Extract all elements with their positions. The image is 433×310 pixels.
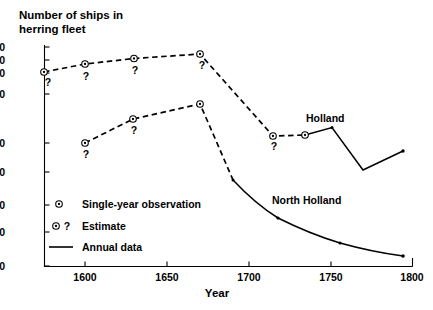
y-tick-500: 500 [0, 54, 5, 66]
series-north-holland-solid [232, 179, 405, 258]
x-axis-title: Year [205, 287, 229, 299]
x-tick-1800: 1800 [400, 271, 423, 283]
legend-marker-single-year-observation [56, 201, 63, 208]
y-axis-tick-labels: 600 500 400 300 200 150 100 70 50 [0, 0, 44, 310]
y-tick-150: 150 [0, 166, 5, 178]
estimate-qmark-1630-holland: ? [132, 64, 138, 76]
x-tick-1650: 1650 [155, 271, 178, 283]
x-tick-1700: 1700 [237, 271, 260, 283]
y-tick-200: 200 [0, 137, 5, 149]
x-tick-1750: 1750 [319, 271, 342, 283]
y-tick-600: 600 [0, 41, 5, 53]
legend-label-annual-data: Annual data [82, 241, 142, 253]
legend-marker-estimate [53, 223, 60, 230]
series-label-north-holland: North Holland [272, 194, 341, 206]
y-tick-100: 100 [0, 199, 5, 211]
y-tick-50: 50 [0, 260, 5, 272]
axis-lines [45, 45, 413, 267]
y-tick-70: 70 [0, 226, 5, 238]
estimate-qmark-1630-north-holland: ? [131, 124, 137, 136]
legend-estimate-qmark-icon: ? [64, 220, 70, 232]
estimate-qmark-1600-north-holland: ? [83, 148, 89, 160]
series-label-holland: Holland [306, 112, 345, 124]
legend-label-single-year-observation: Single-year observation [82, 198, 201, 210]
x-tick-1600: 1600 [73, 271, 96, 283]
estimate-qmark-1575: ? [45, 76, 51, 88]
estimate-qmark-1710-holland: ? [271, 140, 277, 152]
y-tick-400: 400 [0, 67, 5, 79]
estimate-qmark-1670-holland: ? [199, 59, 205, 71]
x-axis-ticks [85, 258, 413, 267]
series-holland-solid [305, 126, 405, 170]
plot-area [0, 0, 433, 310]
series-north-holland-dashed [85, 104, 233, 180]
legend-label-estimate: Estimate [82, 220, 126, 232]
estimate-qmark-1600-holland: ? [83, 70, 89, 82]
chart-figure: Number of ships inherring fleet [0, 0, 433, 310]
y-tick-300: 300 [0, 88, 5, 100]
